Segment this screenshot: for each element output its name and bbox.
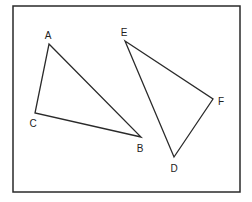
vertex-label-d: D bbox=[170, 163, 177, 174]
vertex-label-b: B bbox=[137, 143, 144, 154]
vertex-label-c: C bbox=[29, 118, 36, 129]
vertex-label-e: E bbox=[121, 27, 128, 38]
vertex-label-f: F bbox=[218, 96, 224, 107]
triangle-def bbox=[125, 41, 213, 157]
triangles-diagram: A B C E F D bbox=[0, 0, 252, 202]
vertex-label-a: A bbox=[45, 30, 52, 41]
triangle-abc bbox=[35, 44, 141, 137]
